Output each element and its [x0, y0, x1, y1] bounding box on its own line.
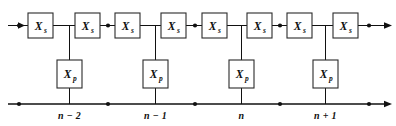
shunt-box-3-label: X: [235, 68, 244, 80]
shunt-element-4[interactable]: X p: [313, 60, 338, 88]
series-element-8[interactable]: X s: [333, 13, 358, 38]
shunt-box-2-subscript: p: [158, 74, 163, 83]
series-element-2[interactable]: X s: [75, 13, 100, 38]
shunt-box-1-label: X: [63, 68, 72, 80]
series-box-7-subscript: s: [302, 26, 306, 35]
series-box-5-subscript: s: [217, 26, 221, 35]
series-element-1[interactable]: X s: [28, 13, 53, 38]
bottom-node-dot-5: [367, 102, 371, 106]
series-box-4-subscript: s: [176, 26, 180, 35]
node-label-n-minus-1: n − 1: [144, 110, 167, 121]
schematic-canvas: X s X s X s X s X s: [0, 0, 396, 126]
top-node-dot-5: [367, 23, 371, 27]
top-left-arrow-icon: [18, 22, 25, 29]
shunt-box-2-label: X: [149, 68, 158, 80]
node-label-n: n: [239, 110, 245, 121]
node-index-labels: n − 2 n − 1 n n + 1: [58, 110, 337, 121]
shunt-box-1-subscript: p: [72, 74, 77, 83]
top-right-arrow-icon: [384, 22, 392, 29]
shunt-box-4-subscript: p: [328, 74, 333, 83]
shunt-element-group: X p X p X p X p: [57, 60, 338, 88]
node-label-n-minus-2: n − 2: [58, 110, 81, 121]
series-box-2-subscript: s: [90, 26, 94, 35]
top-node-dot-4: [278, 23, 282, 27]
bottom-node-dot-4: [278, 102, 282, 106]
series-box-3-subscript: s: [130, 26, 134, 35]
series-box-2-label: X: [81, 20, 90, 32]
shunt-element-3[interactable]: X p: [229, 60, 254, 88]
series-box-1-label: X: [34, 20, 43, 32]
top-node-dot-3: [193, 23, 197, 27]
series-box-5-label: X: [208, 20, 217, 32]
bottom-node-dot-3: [193, 102, 197, 106]
series-box-8-subscript: s: [348, 26, 352, 35]
shunt-box-3-subscript: p: [244, 74, 249, 83]
shunt-element-2[interactable]: X p: [143, 60, 168, 88]
shunt-element-1[interactable]: X p: [57, 60, 82, 88]
series-box-3-label: X: [121, 20, 130, 32]
ladder-network-figure: X s X s X s X s X s: [0, 0, 396, 126]
series-element-7[interactable]: X s: [287, 13, 312, 38]
bottom-right-arrow-icon: [384, 101, 392, 108]
series-box-6-label: X: [253, 20, 262, 32]
series-element-3[interactable]: X s: [115, 13, 140, 38]
series-element-5[interactable]: X s: [202, 13, 227, 38]
series-box-4-label: X: [167, 20, 176, 32]
top-node-dot-2: [106, 23, 110, 27]
bottom-node-dot-1: [17, 102, 21, 106]
series-element-6[interactable]: X s: [247, 13, 272, 38]
series-box-8-label: X: [339, 20, 348, 32]
node-label-n-plus-1: n + 1: [314, 110, 337, 121]
shunt-box-4-label: X: [319, 68, 328, 80]
series-box-7-label: X: [293, 20, 302, 32]
bottom-node-dot-2: [106, 102, 110, 106]
series-box-1-subscript: s: [43, 26, 47, 35]
series-box-6-subscript: s: [262, 26, 266, 35]
series-element-4[interactable]: X s: [161, 13, 186, 38]
